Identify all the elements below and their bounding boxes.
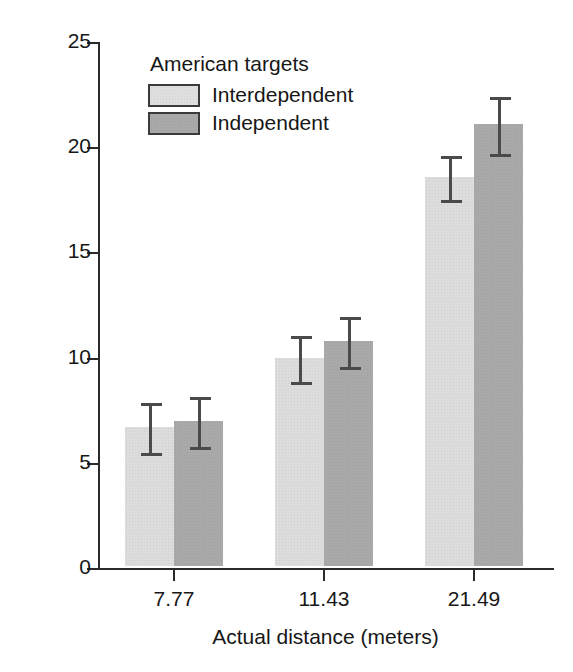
legend-label: Interdependent [212, 83, 353, 107]
y-tick-label: 0 [79, 555, 91, 579]
error-bar-cap-lower [441, 200, 462, 203]
y-tick-label: 10 [68, 345, 91, 369]
x-tick-mark [173, 569, 175, 581]
error-bar-cap-lower [340, 367, 361, 370]
error-bar-cap-upper [441, 156, 462, 159]
y-axis-line [98, 42, 100, 569]
bar-interdependent-11-43 [275, 358, 324, 566]
y-tick-label: 20 [68, 134, 91, 158]
bar-interdependent-21-49 [425, 177, 474, 566]
error-bar-cap-lower [141, 453, 162, 456]
x-tick-label: 11.43 [264, 587, 384, 611]
x-tick-mark [473, 569, 475, 581]
legend-swatch-interdependent [148, 84, 200, 107]
error-bar-cap-upper [291, 336, 312, 339]
legend-entries: InterdependentIndependent [148, 81, 408, 137]
x-tick-label: 7.77 [114, 587, 234, 611]
error-bar-cap-upper [141, 403, 162, 406]
error-bar-stem [449, 157, 452, 201]
error-bar-stem [348, 318, 351, 368]
bar-independent-21-49 [474, 124, 523, 566]
error-bar-stem [149, 404, 152, 454]
y-tick-label: 5 [79, 450, 91, 474]
legend: American targets InterdependentIndepende… [148, 50, 408, 137]
x-axis-line [98, 568, 554, 570]
error-bar-stem [498, 98, 501, 155]
error-bar-cap-upper [340, 317, 361, 320]
legend-item-independent: Independent [148, 109, 408, 137]
bar-independent-11-43 [324, 341, 373, 566]
error-bar-cap-lower [490, 154, 511, 157]
bar-chart-figure: Estimate (secs) 0510152025 7.7711.4321.4… [0, 0, 573, 672]
error-bar-cap-upper [490, 97, 511, 100]
error-bar-cap-lower [190, 447, 211, 450]
x-tick-label: 21.49 [414, 587, 534, 611]
legend-swatch-independent [148, 112, 200, 135]
legend-title: American targets [150, 50, 408, 77]
x-axis-title: Actual distance (meters) [98, 624, 553, 650]
error-bar-stem [299, 337, 302, 383]
legend-item-interdependent: Interdependent [148, 81, 408, 109]
y-tick-label: 25 [68, 29, 91, 53]
error-bar-cap-upper [190, 397, 211, 400]
error-bar-stem [198, 398, 201, 448]
x-tick-mark [323, 569, 325, 581]
y-tick-label: 15 [68, 239, 91, 263]
error-bar-cap-lower [291, 382, 312, 385]
legend-label: Independent [212, 111, 329, 135]
